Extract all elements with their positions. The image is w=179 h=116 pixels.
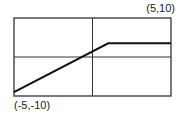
bottom-left-corner-label: (-5,-10) [14,99,50,111]
top-right-corner-label: (5,10) [146,2,175,14]
